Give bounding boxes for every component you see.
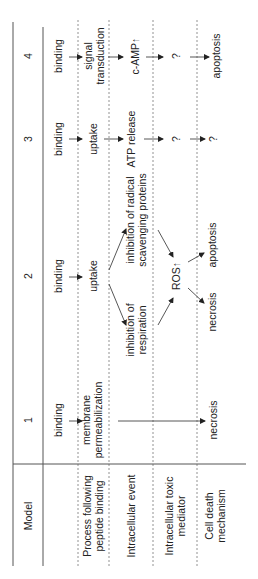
svg-text:?: ? <box>170 136 182 142</box>
svg-text:necrosis: necrosis <box>206 292 218 331</box>
svg-text:apoptosis: apoptosis <box>210 34 222 79</box>
model-4: 4 binding signal transduction c-AMP↑ ? a… <box>22 27 222 84</box>
svg-text:uptake: uptake <box>87 260 99 292</box>
svg-text:?: ? <box>207 136 219 142</box>
model-number: 3 <box>22 136 34 142</box>
svg-text:Process following: Process following <box>81 475 93 557</box>
svg-text:respiration: respiration <box>136 305 148 354</box>
svg-text:?: ? <box>170 53 182 59</box>
model-number: 1 <box>22 417 34 423</box>
model-1: 1 binding membrane permeabilization necr… <box>22 382 219 459</box>
model-number: 2 <box>22 273 34 279</box>
svg-text:binding: binding <box>52 122 64 156</box>
svg-text:inhibition of radical: inhibition of radical <box>124 177 136 264</box>
svg-text:necrosis: necrosis <box>207 400 219 439</box>
svg-text:peptide binding: peptide binding <box>93 480 105 551</box>
svg-text:c-AMP↑: c-AMP↑ <box>129 38 141 75</box>
svg-text:scavenging proteins: scavenging proteins <box>136 173 148 266</box>
svg-text:binding: binding <box>52 403 64 437</box>
svg-text:inhibition of: inhibition of <box>124 303 136 356</box>
svg-text:mediator: mediator <box>175 495 187 536</box>
svg-text:Intracellular toxic: Intracellular toxic <box>163 477 175 556</box>
svg-text:transduction: transduction <box>94 27 106 84</box>
svg-text:mechanism: mechanism <box>215 489 227 543</box>
svg-text:ROS↑: ROS↑ <box>170 262 182 290</box>
row-label-model: Model <box>22 502 34 531</box>
svg-text:Cell death: Cell death <box>203 492 215 539</box>
model-number: 4 <box>22 53 34 59</box>
rotated-table-diagram: Model Process following peptide binding … <box>0 0 258 579</box>
svg-text:ATP release: ATP release <box>125 110 137 167</box>
svg-text:membrane: membrane <box>80 395 92 445</box>
svg-text:signal: signal <box>82 42 94 69</box>
svg-text:binding: binding <box>52 39 64 73</box>
row-label-cell-death: Cell death mechanism <box>203 489 227 543</box>
svg-text:apoptosis: apoptosis <box>206 223 218 268</box>
svg-text:binding: binding <box>52 259 64 293</box>
svg-text:permeabilization: permeabilization <box>92 382 104 459</box>
row-label-process: Process following peptide binding <box>81 475 105 557</box>
svg-text:Model: Model <box>22 502 34 531</box>
model-3: 3 binding uptake ATP release ? ? <box>22 110 219 167</box>
row-label-toxic-mediator: Intracellular toxic mediator <box>163 477 187 556</box>
model-2: 2 binding uptake inhibition of respirati… <box>22 173 218 356</box>
row-label-intracellular-event: Intracellular event <box>125 474 137 557</box>
svg-text:Intracellular event: Intracellular event <box>125 474 137 557</box>
svg-text:uptake: uptake <box>87 123 99 155</box>
